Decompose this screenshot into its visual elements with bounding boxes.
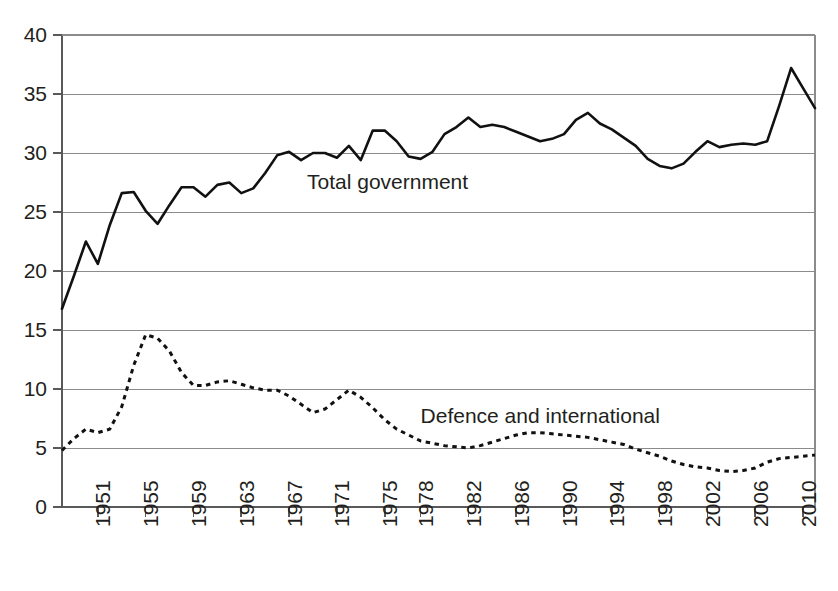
y-tick-label-5: 5: [35, 436, 47, 459]
y-tick-label-10: 10: [24, 377, 47, 400]
x-tick-label-1990: 1990: [558, 480, 581, 527]
x-tick-label-1998: 1998: [653, 480, 676, 527]
x-tick-label-1971: 1971: [330, 480, 353, 527]
y-tick-label-15: 15: [24, 318, 47, 341]
x-tick-label-1955: 1955: [139, 480, 162, 527]
y-tick-label-35: 35: [24, 82, 47, 105]
y-tick-label-25: 25: [24, 200, 47, 223]
chart-container: 0510152025303540 19511955195919631967197…: [0, 0, 838, 591]
x-tick-label-2006: 2006: [749, 480, 772, 527]
y-tick-label-30: 30: [24, 141, 47, 164]
x-tick-label-1978: 1978: [414, 480, 437, 527]
series-label-total-government: Total government: [307, 170, 468, 193]
x-axis-labels-group: 1951195519591963196719711975197819821986…: [91, 480, 819, 527]
x-tick-label-1959: 1959: [187, 480, 210, 527]
x-tick-label-1963: 1963: [235, 480, 258, 527]
x-tick-label-1967: 1967: [283, 480, 306, 527]
x-tick-label-1994: 1994: [605, 480, 628, 527]
x-tick-label-2002: 2002: [701, 480, 724, 527]
x-tick-label-1982: 1982: [462, 480, 485, 527]
x-tick-label-1951: 1951: [91, 480, 114, 527]
gridlines-group: [62, 35, 815, 448]
x-tick-label-1986: 1986: [510, 480, 533, 527]
y-tick-label-0: 0: [35, 495, 47, 518]
tick-marks-group: [53, 35, 803, 517]
x-tick-label-2010: 2010: [797, 480, 820, 527]
x-tick-label-1975: 1975: [378, 480, 401, 527]
y-tick-label-20: 20: [24, 259, 47, 282]
series-annotations-group: Total governmentDefence and internationa…: [307, 170, 660, 427]
line-chart: 0510152025303540 19511955195919631967197…: [0, 0, 838, 591]
series-label-defence-and-international: Defence and international: [421, 404, 660, 427]
y-axis-labels-group: 0510152025303540: [24, 23, 47, 518]
y-tick-label-40: 40: [24, 23, 47, 46]
